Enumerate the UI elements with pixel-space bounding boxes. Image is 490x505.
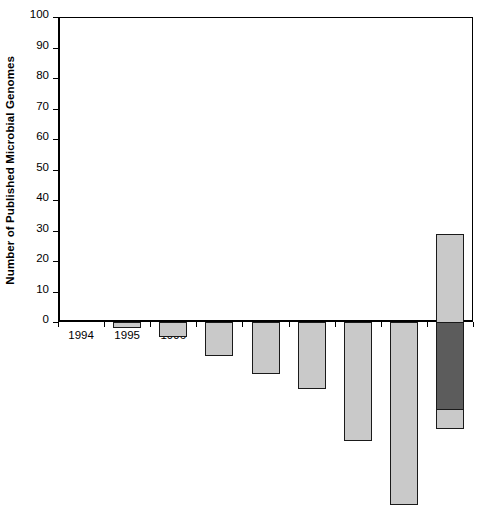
bar-segment-lower-segment (344, 322, 372, 441)
bar-segment-lower-segment (159, 322, 187, 337)
y-axis-tick-label: 90 (36, 40, 49, 52)
bar-segment-lower-segment (252, 322, 280, 374)
y-axis-tick-mark (53, 17, 58, 18)
x-axis-tick-mark (58, 322, 59, 327)
y-axis-tick-mark (53, 109, 58, 110)
y-axis-tick-label: 0 (43, 314, 49, 326)
bar-1998 (252, 270, 280, 322)
y-axis-tick-mark (53, 292, 58, 293)
bar-1995 (113, 316, 141, 322)
x-axis-tick-mark (381, 322, 382, 327)
x-axis-tick-label: 1994 (58, 330, 104, 342)
x-axis-tick-mark (150, 322, 151, 327)
y-axis-tick-label: 70 (36, 101, 49, 113)
bar-1999 (298, 255, 326, 322)
x-axis-tick-mark (196, 322, 197, 327)
y-axis-title: Number of Published Microbial Genomes (0, 0, 22, 340)
bar-1997 (205, 288, 233, 322)
bar-segment-lower-segment (205, 322, 233, 356)
y-axis-tick-mark (53, 78, 58, 79)
y-axis-title-text: Number of Published Microbial Genomes (5, 56, 17, 285)
x-axis-tick-mark (427, 322, 428, 327)
x-axis-tick-label: 1995 (104, 330, 150, 342)
y-axis-tick-label: 30 (36, 223, 49, 235)
bar-2000 (344, 203, 372, 322)
x-axis-tick-mark (335, 322, 336, 327)
y-axis-tick-label: 40 (36, 192, 49, 204)
y-axis-tick-label: 60 (36, 131, 49, 143)
bar-2001 (390, 139, 418, 322)
bar-segment-upper-segment (436, 322, 464, 410)
bar-segment-lower-segment (298, 322, 326, 389)
y-axis-tick-label: 20 (36, 253, 49, 265)
bar-segment-lower-segment (113, 322, 141, 328)
y-axis-tick-label: 50 (36, 162, 49, 174)
bar-2002 (436, 38, 464, 322)
bar-1996 (159, 307, 187, 322)
y-axis-tick-label: 100 (30, 9, 49, 21)
y-axis-tick-label: 10 (36, 284, 49, 296)
y-axis-tick-mark (53, 139, 58, 140)
y-axis-tick-mark (53, 170, 58, 171)
x-axis-tick-mark (104, 322, 105, 327)
x-axis-tick-mark (289, 322, 290, 327)
x-axis-tick-mark (473, 322, 474, 327)
y-axis-tick-mark (53, 200, 58, 201)
y-axis-tick-mark (53, 261, 58, 262)
x-axis-tick-mark (242, 322, 243, 327)
y-axis-tick-mark (53, 231, 58, 232)
y-axis-tick-mark (53, 48, 58, 49)
y-axis-tick-label: 80 (36, 70, 49, 82)
bar-segment-lower-segment (390, 322, 418, 505)
